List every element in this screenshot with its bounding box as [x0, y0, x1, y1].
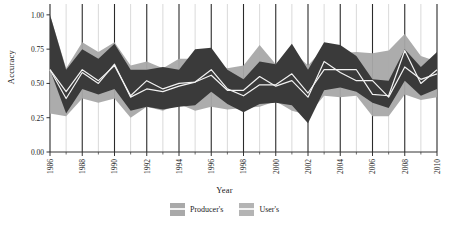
legend-label-users: User's [259, 205, 279, 214]
svg-text:1994: 1994 [175, 159, 184, 174]
legend-item-users[interactable]: User's [239, 203, 279, 216]
svg-text:2004: 2004 [336, 159, 345, 174]
chart-legend: Producer's User's [0, 203, 449, 216]
svg-text:1990: 1990 [110, 159, 119, 174]
legend-label-producers: Producer's [190, 205, 223, 214]
svg-text:0.00: 0.00 [31, 148, 44, 157]
legend-item-producers[interactable]: Producer's [170, 203, 223, 216]
svg-text:1996: 1996 [207, 159, 216, 174]
legend-swatch-users [239, 203, 254, 216]
svg-text:1992: 1992 [143, 159, 152, 174]
svg-text:0.50: 0.50 [31, 79, 44, 88]
x-axis-title: Year [0, 185, 449, 195]
chart-figure: 0.000.250.500.751.00 1986198819901992199… [0, 0, 449, 228]
svg-text:1988: 1988 [78, 159, 87, 174]
svg-text:2002: 2002 [304, 159, 313, 174]
svg-text:2006: 2006 [368, 159, 377, 174]
svg-text:2008: 2008 [401, 159, 410, 174]
svg-text:2000: 2000 [272, 159, 281, 174]
x-axis-ticks: 1986198819901992199419961998200020022004… [46, 152, 442, 174]
y-axis-ticks: 0.000.250.500.751.00 [31, 11, 50, 157]
y-axis-title: Accuracy [6, 50, 20, 84]
svg-text:1986: 1986 [46, 159, 55, 174]
svg-text:1.00: 1.00 [31, 11, 44, 20]
svg-text:0.75: 0.75 [31, 45, 44, 54]
legend-swatch-producers [170, 203, 185, 216]
svg-text:1998: 1998 [239, 159, 248, 174]
svg-text:0.25: 0.25 [31, 114, 44, 123]
svg-text:2010: 2010 [433, 159, 442, 174]
